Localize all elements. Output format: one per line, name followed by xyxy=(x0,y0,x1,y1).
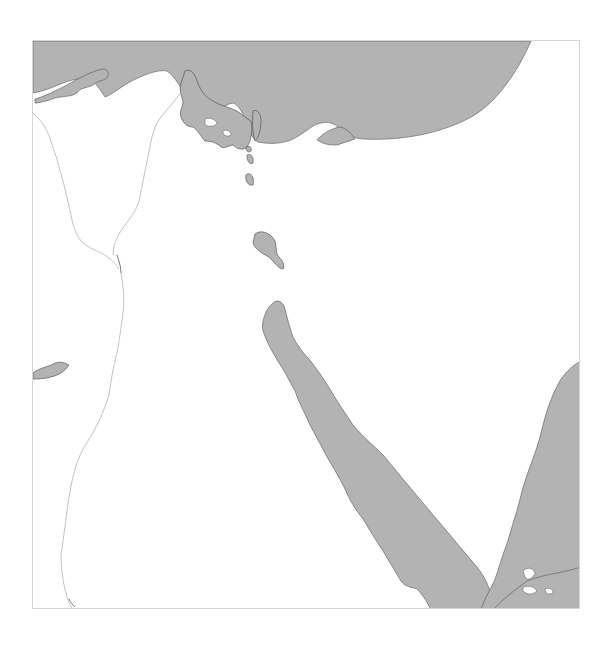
nile-damietta-branch xyxy=(113,89,183,255)
fayum-lake xyxy=(33,362,69,379)
map-frame[interactable] xyxy=(32,40,580,609)
nile-junction xyxy=(117,255,121,273)
nile-main-channel xyxy=(61,273,124,609)
nile-mouth-detail xyxy=(69,599,75,607)
map-canvas[interactable] xyxy=(33,41,580,609)
mediterranean-sea xyxy=(33,41,531,143)
canal-lake xyxy=(247,154,253,163)
lake-timsah xyxy=(246,174,254,185)
canal-lake xyxy=(246,146,251,152)
gulf-of-suez xyxy=(262,301,495,609)
nile-rosetta-branch xyxy=(33,113,119,269)
bitter-lakes xyxy=(253,232,284,269)
